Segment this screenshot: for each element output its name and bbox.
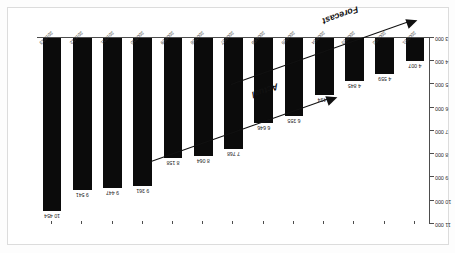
- y-axis-tick: [430, 153, 434, 154]
- bar: [73, 38, 92, 190]
- forecast-trend-label: Forecast: [321, 4, 360, 26]
- bar-value-label: 4 007: [402, 63, 429, 68]
- x-axis-tick: [263, 221, 264, 224]
- bar: [375, 38, 394, 74]
- figure-frame: 3 0004 0005 0006 0007 0008 0009 00010 00…: [7, 7, 449, 245]
- x-axis-tick: [233, 221, 234, 224]
- bar-value-label: 4 845: [341, 83, 368, 88]
- y-axis-tick: [430, 60, 434, 61]
- y-axis-tick-label: 9 000: [435, 175, 448, 180]
- x-axis-tick: [293, 221, 294, 224]
- bar: [345, 38, 364, 81]
- bar-value-label: 4 559: [371, 76, 398, 81]
- actual-trend-arrow-head: [325, 93, 339, 106]
- bar-value-label: 9 541: [69, 192, 96, 197]
- y-axis-tick-label: 5 000: [435, 82, 448, 87]
- bar-value-label: 7 768: [220, 151, 247, 156]
- y-axis-tick-label: 4 000: [435, 59, 448, 64]
- y-axis-tick-label: 7 000: [435, 128, 448, 133]
- y-axis-tick: [430, 37, 434, 38]
- y-axis-tick-label: 8 000: [435, 152, 448, 157]
- forecast-trend-arrow-head: [405, 16, 419, 29]
- bar: [164, 38, 183, 158]
- y-axis-tick-label: 11 000: [435, 221, 451, 226]
- x-axis-tick: [202, 221, 203, 224]
- x-axis-tick: [142, 221, 143, 224]
- y-axis-tick-label: 6 000: [435, 105, 448, 110]
- chart-figure: 3 0004 0005 0006 0007 0008 0009 00010 00…: [0, 0, 455, 253]
- bar-value-label: 6 355: [281, 118, 308, 123]
- x-axis-tick: [112, 221, 113, 224]
- y-axis-line: [429, 38, 430, 224]
- x-axis-tick: [323, 221, 324, 224]
- bar-value-label: 10 454: [39, 213, 66, 218]
- x-axis-tick: [81, 221, 82, 224]
- bar: [194, 38, 213, 156]
- x-axis-tick: [384, 221, 385, 224]
- bar: [254, 38, 273, 123]
- y-axis-tick: [430, 107, 434, 108]
- y-axis-tick-label: 10 000: [435, 198, 451, 203]
- x-axis-tick: [172, 221, 173, 224]
- bar: [103, 38, 122, 188]
- x-axis-tick: [414, 221, 415, 224]
- y-axis-tick: [430, 84, 434, 85]
- bar: [315, 38, 334, 95]
- y-axis-tick: [430, 177, 434, 178]
- x-axis-tick: [51, 221, 52, 224]
- bar-value-label: 9 447: [99, 190, 126, 195]
- bar-value-label: 8 158: [160, 160, 187, 165]
- x-axis-tick: [353, 221, 354, 224]
- bar: [43, 38, 62, 211]
- bar: [133, 38, 152, 186]
- plot-area: 3 0004 0005 0006 0007 0008 0009 00010 00…: [37, 38, 430, 224]
- bar: [285, 38, 304, 116]
- y-axis-tick: [430, 200, 434, 201]
- bar-value-label: 8 064: [190, 158, 217, 163]
- y-axis-tick: [430, 130, 434, 131]
- bar-value-label: 9 361: [129, 188, 156, 193]
- y-axis-tick-label: 3 000: [435, 35, 448, 40]
- y-axis-tick: [430, 223, 434, 224]
